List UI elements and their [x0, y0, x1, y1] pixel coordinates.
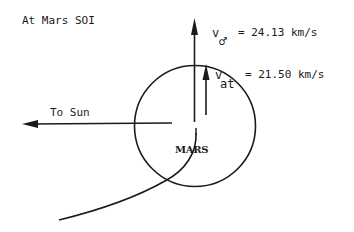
v-at-label: v at = 21.50 km/s: [215, 69, 222, 81]
to-sun-arrowhead-icon: [22, 120, 38, 128]
diagram-title: At Mars SOI: [22, 15, 95, 26]
mars-label: MARS: [175, 145, 208, 155]
v-at-value: = 21.50 km/s: [245, 69, 324, 80]
v-mars-label: v ♂ = 24.13 km/s: [212, 27, 219, 39]
mars-symbol-icon: ♂: [219, 35, 227, 48]
to-sun-label: To Sun: [50, 107, 90, 118]
mars-soi-diagram: At Mars SOI To Sun MARS v ♂ = 24.13 km/s…: [0, 0, 354, 232]
to-sun-arrow-shaft: [30, 123, 172, 124]
v-at-subscript: at: [220, 78, 234, 90]
v-mars-arrowhead-icon: [191, 18, 198, 35]
v-mars-value: = 24.13 km/s: [238, 27, 317, 38]
